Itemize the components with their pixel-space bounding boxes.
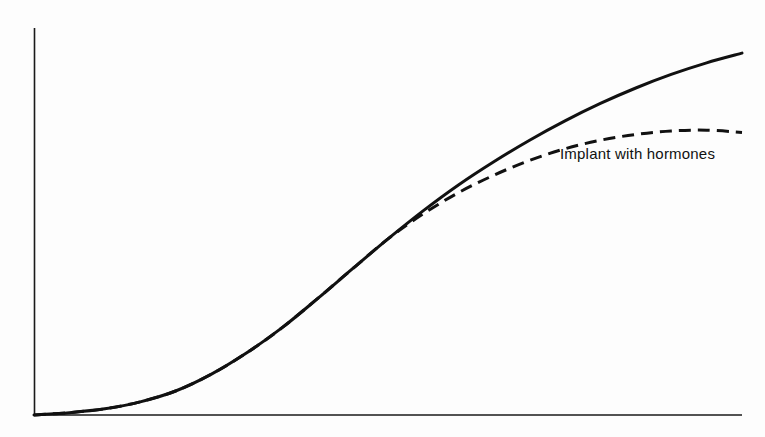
series-line-dashed [34, 130, 742, 415]
chart-figure: Implant with hormones [0, 0, 765, 437]
chart-plot-area [0, 0, 765, 437]
series-line-solid [34, 53, 742, 415]
series-annotation-implant-with-hormones: Implant with hormones [560, 146, 715, 161]
